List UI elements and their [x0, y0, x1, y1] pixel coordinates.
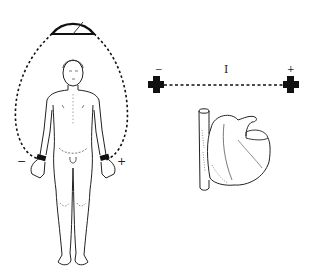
- positive-sign: +: [287, 64, 295, 74]
- galvanometer-icon: [51, 19, 95, 34]
- right-electrode-sign: +: [117, 155, 126, 168]
- electrode-wire-loop: [15, 34, 127, 160]
- human-figure: [31, 60, 115, 265]
- lead-i-diagram: − + − I +: [0, 0, 313, 276]
- heart-illustration: [199, 109, 270, 190]
- negative-sign: −: [155, 64, 163, 74]
- positive-electrode-icon: [283, 76, 299, 93]
- negative-electrode-icon: [148, 76, 164, 93]
- lead-i-schematic: [148, 76, 299, 93]
- lead-label: I: [224, 63, 228, 76]
- left-wrist-electrode: [36, 154, 46, 161]
- left-electrode-sign: −: [17, 155, 26, 168]
